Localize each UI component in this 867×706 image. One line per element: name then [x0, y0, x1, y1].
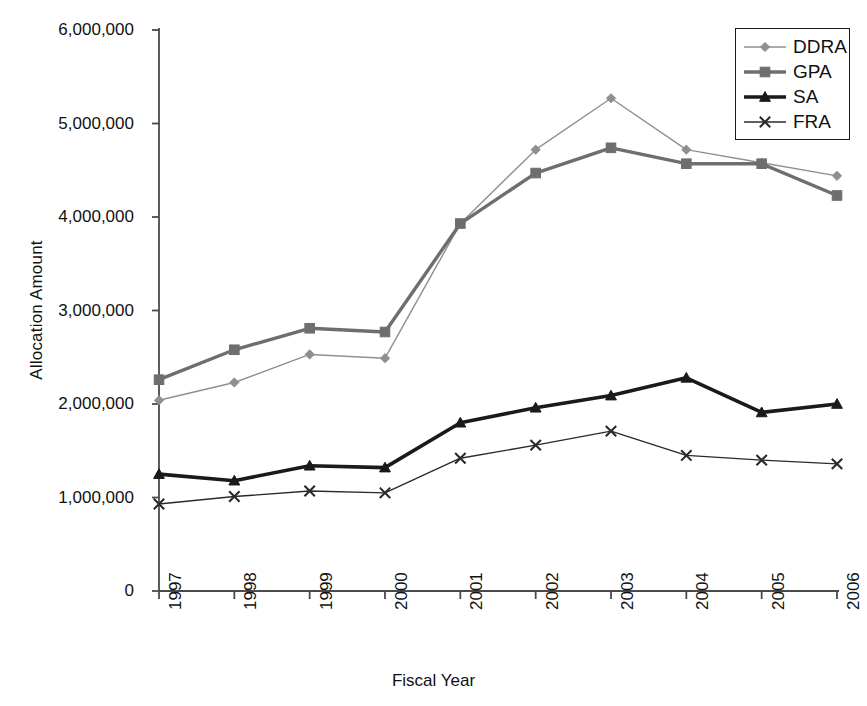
- marker-square: [760, 67, 770, 77]
- marker-diamond: [760, 42, 769, 51]
- x-axis-tick-label: 2003: [619, 572, 636, 610]
- x-axis-tick-label: 1997: [167, 572, 184, 610]
- legend-swatch-triangle-icon: [742, 86, 788, 108]
- data-point-diamond: [760, 42, 769, 51]
- legend-item-fra[interactable]: FRA: [742, 109, 840, 134]
- legend-label: GPA: [793, 62, 832, 81]
- x-axis-tick-label: 1998: [242, 572, 259, 610]
- x-axis-tick-label: 2001: [468, 572, 485, 610]
- x-axis-tick-label: 2000: [393, 572, 410, 610]
- legend-item-sa[interactable]: SA: [742, 84, 840, 109]
- legend-label: FRA: [793, 112, 831, 131]
- x-axis-tick-label: 2005: [770, 572, 787, 610]
- chart-legend: DDRAGPASAFRA: [735, 28, 850, 140]
- legend-item-ddra[interactable]: DDRA: [742, 34, 840, 59]
- x-axis-tick-label: 2004: [694, 572, 711, 610]
- x-axis-title: Fiscal Year: [0, 671, 867, 691]
- legend-swatch-x-icon: [742, 111, 788, 133]
- legend-item-gpa[interactable]: GPA: [742, 59, 840, 84]
- legend-label: SA: [793, 87, 818, 106]
- legend-label: DDRA: [793, 37, 847, 56]
- x-axis-tick-label: 2006: [845, 572, 862, 610]
- legend-swatch-diamond-icon: [742, 36, 788, 58]
- data-point-square: [760, 67, 770, 77]
- x-axis-tick-label: 1999: [318, 572, 335, 610]
- x-axis-tick-label: 2002: [544, 572, 561, 610]
- legend-swatch-square-icon: [742, 61, 788, 83]
- line-chart: Allocation Amount 01,000,0002,000,0003,0…: [0, 0, 867, 706]
